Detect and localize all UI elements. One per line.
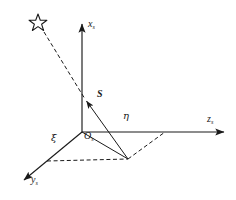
x-axis-label-subscript: s bbox=[92, 23, 94, 30]
line-of-sight-dashed bbox=[44, 32, 85, 99]
sun-vector-label: S bbox=[97, 89, 103, 99]
diagram-svg bbox=[0, 0, 236, 200]
origin-label: Os bbox=[84, 131, 94, 141]
origin-label-subscript: s bbox=[91, 135, 93, 142]
projection-dashed-edge-right bbox=[128, 132, 165, 159]
projection-dashed-edge-left bbox=[47, 159, 128, 161]
z-axis-label-subscript: s bbox=[211, 118, 213, 125]
z-axis-label: zs bbox=[207, 114, 213, 124]
x-axis-label: xs bbox=[88, 19, 95, 29]
angle-xi-label: ξ bbox=[51, 133, 57, 143]
y-axis-label: ys bbox=[31, 175, 38, 185]
angle-eta-label: η bbox=[123, 111, 129, 121]
star-icon bbox=[29, 14, 47, 31]
y-axis-label-subscript: s bbox=[35, 179, 37, 186]
vector-solid-shaft bbox=[87, 101, 129, 159]
figure-canvas: xs zs ys Os S ξ η bbox=[0, 0, 236, 200]
